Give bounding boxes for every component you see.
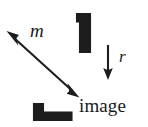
reflection-diagram: m r image — [0, 0, 148, 127]
object-lamina-shape — [77, 14, 91, 53]
mirror-line-label: m — [30, 21, 44, 40]
image-lamina-shape — [34, 104, 73, 121]
reflection-direction-arrow — [103, 45, 113, 80]
image-caption-label: image — [79, 96, 126, 115]
reflection-label: r — [119, 48, 126, 65]
